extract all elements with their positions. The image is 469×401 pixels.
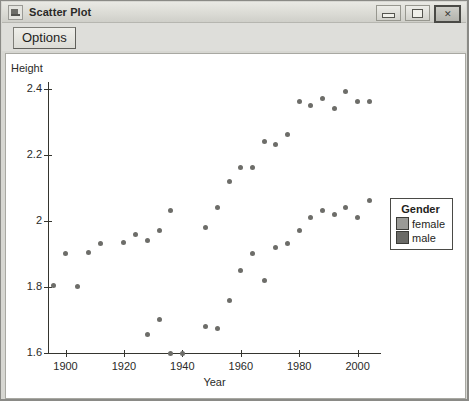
legend-title: Gender bbox=[396, 203, 445, 215]
toolbar: Options bbox=[2, 23, 466, 51]
data-point bbox=[343, 205, 348, 210]
y-tick-label: 1.8 bbox=[6, 280, 42, 292]
y-tick-label: 2 bbox=[6, 214, 42, 226]
legend-item[interactable]: male bbox=[396, 231, 445, 244]
data-point bbox=[262, 278, 267, 283]
data-point bbox=[285, 132, 290, 137]
x-tick-label: 1900 bbox=[46, 360, 86, 372]
y-tick bbox=[44, 89, 52, 90]
data-point bbox=[355, 99, 360, 104]
data-point bbox=[215, 205, 220, 210]
minimize-button[interactable] bbox=[376, 5, 401, 21]
y-tick-label: 1.6 bbox=[6, 346, 42, 358]
data-point bbox=[262, 139, 267, 144]
y-tick bbox=[44, 155, 52, 156]
data-point bbox=[168, 351, 173, 356]
data-point bbox=[203, 324, 208, 329]
data-point bbox=[121, 240, 126, 245]
data-point bbox=[86, 250, 91, 255]
data-point bbox=[63, 251, 68, 256]
data-point bbox=[215, 326, 220, 331]
data-point bbox=[355, 215, 360, 220]
data-point bbox=[145, 332, 150, 337]
x-tick bbox=[299, 350, 300, 357]
data-point bbox=[320, 208, 325, 213]
data-point bbox=[157, 228, 162, 233]
scatter-plot: Height Year 1.61.822.22.4 19001920194019… bbox=[6, 54, 465, 398]
x-tick bbox=[66, 350, 67, 357]
data-point bbox=[343, 89, 348, 94]
data-point bbox=[227, 298, 232, 303]
data-point bbox=[297, 228, 302, 233]
x-tick bbox=[241, 350, 242, 357]
legend-swatch-icon bbox=[396, 231, 409, 244]
y-tick-label: 2.4 bbox=[6, 82, 42, 94]
data-point bbox=[308, 215, 313, 220]
data-point bbox=[227, 179, 232, 184]
data-point bbox=[168, 208, 173, 213]
data-point bbox=[367, 198, 372, 203]
legend-swatch-icon bbox=[396, 217, 409, 230]
data-point bbox=[297, 99, 302, 104]
maximize-button[interactable] bbox=[405, 5, 430, 21]
data-point bbox=[203, 225, 208, 230]
x-axis-line bbox=[48, 353, 381, 354]
data-point bbox=[157, 317, 162, 322]
app-icon bbox=[8, 5, 23, 20]
data-point bbox=[98, 241, 103, 246]
data-point bbox=[320, 96, 325, 101]
y-tick bbox=[44, 353, 52, 354]
x-tick-label: 2000 bbox=[338, 360, 378, 372]
data-point bbox=[133, 232, 138, 237]
legend-item-label: male bbox=[412, 232, 436, 244]
data-point bbox=[238, 165, 243, 170]
x-tick-label: 1920 bbox=[104, 360, 144, 372]
data-point bbox=[332, 106, 337, 111]
chart-panel: Height Year 1.61.822.22.4 19001920194019… bbox=[5, 53, 466, 399]
data-point bbox=[51, 283, 56, 288]
options-button[interactable]: Options bbox=[13, 27, 76, 49]
data-point bbox=[273, 142, 278, 147]
x-tick bbox=[124, 350, 125, 357]
x-tick bbox=[358, 350, 359, 357]
data-point bbox=[238, 268, 243, 273]
y-tick bbox=[44, 221, 52, 222]
data-point bbox=[367, 99, 372, 104]
data-point bbox=[308, 103, 313, 108]
y-tick-label: 2.2 bbox=[6, 148, 42, 160]
window-title: Scatter Plot bbox=[29, 6, 91, 18]
data-point bbox=[180, 351, 185, 356]
data-point bbox=[332, 212, 337, 217]
legend-item[interactable]: female bbox=[396, 217, 445, 230]
legend-entries: femalemale bbox=[396, 217, 445, 244]
legend: Gender femalemale bbox=[390, 198, 453, 250]
data-point bbox=[273, 245, 278, 250]
window-controls: ✕ bbox=[376, 5, 461, 23]
y-axis-line bbox=[48, 82, 49, 354]
close-button[interactable]: ✕ bbox=[434, 5, 461, 23]
y-axis-title: Height bbox=[11, 62, 43, 74]
x-tick-label: 1980 bbox=[279, 360, 319, 372]
data-point bbox=[75, 284, 80, 289]
x-axis-title: Year bbox=[48, 376, 381, 388]
data-point bbox=[250, 165, 255, 170]
data-point bbox=[250, 251, 255, 256]
title-bar[interactable]: Scatter Plot ✕ bbox=[2, 2, 466, 23]
legend-item-label: female bbox=[412, 218, 445, 230]
x-tick-label: 1940 bbox=[162, 360, 202, 372]
x-tick-label: 1960 bbox=[221, 360, 261, 372]
data-point bbox=[285, 241, 290, 246]
data-point bbox=[145, 238, 150, 243]
application-window: Scatter Plot ✕ Options Height Year 1.61.… bbox=[0, 0, 469, 401]
